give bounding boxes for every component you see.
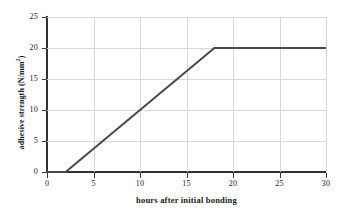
x-tick-label: 15: [182, 180, 190, 188]
chart-figure: adhesive strength (N/mm2) hours after in…: [0, 0, 347, 215]
x-tick-label: 0: [45, 180, 49, 188]
y-axis-title-superscript: 2: [15, 58, 21, 61]
x-tick-label: 20: [229, 180, 237, 188]
x-tick-mark: [140, 173, 141, 178]
x-tick-label: 10: [136, 180, 144, 188]
x-tick-mark: [94, 173, 95, 178]
x-tick-label: 5: [91, 180, 95, 188]
x-tick-label: 30: [322, 180, 330, 188]
x-tick-label: 25: [275, 180, 283, 188]
y-tick-label: 25: [30, 13, 38, 21]
series-line-adhesive-strength: [47, 17, 326, 172]
y-tick-label: 15: [30, 75, 38, 83]
y-axis-title-text: adhesive strength (N/mm: [17, 61, 26, 149]
x-tick-mark: [233, 173, 234, 178]
y-tick-label: 0: [34, 168, 38, 176]
y-axis-title-suffix: ): [17, 56, 26, 59]
y-tick-label: 10: [30, 106, 38, 114]
x-axis-title: hours after initial bonding: [47, 195, 326, 205]
x-tick-mark: [47, 173, 48, 178]
y-tick-label: 5: [34, 137, 38, 145]
y-axis-title: adhesive strength (N/mm2): [14, 25, 30, 180]
x-tick-mark: [326, 173, 327, 178]
x-tick-mark: [187, 173, 188, 178]
x-tick-mark: [280, 173, 281, 178]
y-tick-label: 20: [30, 44, 38, 52]
plot-area: [47, 17, 326, 172]
gridline-vertical: [326, 17, 327, 172]
